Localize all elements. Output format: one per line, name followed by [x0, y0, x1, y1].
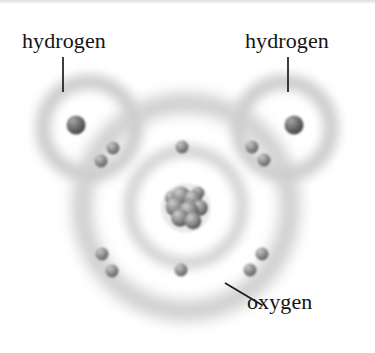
electron-outer-lower-right-lower [244, 264, 257, 277]
electron-outer-top-center [176, 141, 189, 154]
electron-outer-lower-left-upper [96, 248, 109, 261]
electron-outer-lower-right-upper [256, 248, 269, 261]
electron-shared-upper-left-inner [95, 155, 108, 168]
hydrogen-left-electron [67, 116, 86, 135]
electron-shared-upper-left-outer [107, 142, 120, 155]
label-oxygen: oxygen [247, 291, 312, 313]
water-molecule-figure: hydrogen hydrogen oxygen [0, 0, 375, 353]
label-hydrogen-right: hydrogen [245, 30, 329, 52]
electron-shared-upper-right-inner [258, 154, 271, 167]
electron-outer-bottom-center [175, 264, 188, 277]
electron-shared-upper-right-outer [246, 141, 259, 154]
hydrogen-right-electron [285, 116, 304, 135]
oxygen-nucleus [161, 183, 211, 233]
label-hydrogen-left: hydrogen [22, 30, 106, 52]
electron-outer-lower-left-lower [106, 265, 119, 278]
nucleon [185, 213, 202, 230]
